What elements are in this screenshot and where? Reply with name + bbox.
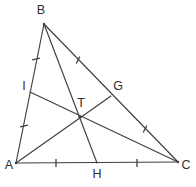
side-AB	[16, 24, 44, 163]
median-CI	[30, 92, 178, 162]
label-T: T	[77, 96, 85, 110]
point-A-dot	[15, 162, 17, 164]
tick-marks	[20, 56, 147, 167]
geometry-figure: A B C G H I T	[0, 0, 196, 187]
median-AG	[16, 96, 111, 163]
label-G: G	[113, 79, 123, 93]
label-H: H	[92, 167, 101, 181]
side-BC	[44, 24, 178, 162]
point-C-dot	[177, 161, 179, 163]
point-T-dot	[78, 115, 81, 118]
point-B-dot	[43, 23, 45, 25]
triangle-medians-diagram: A B C G H I T	[0, 0, 196, 187]
tick-AI-icon	[20, 125, 28, 127]
median-BH	[44, 24, 97, 163]
label-I: I	[22, 79, 25, 93]
label-B: B	[37, 3, 45, 17]
triangle-sides	[16, 24, 178, 163]
tick-IB-icon	[32, 58, 40, 60]
label-A: A	[5, 158, 14, 172]
label-C: C	[181, 158, 190, 172]
